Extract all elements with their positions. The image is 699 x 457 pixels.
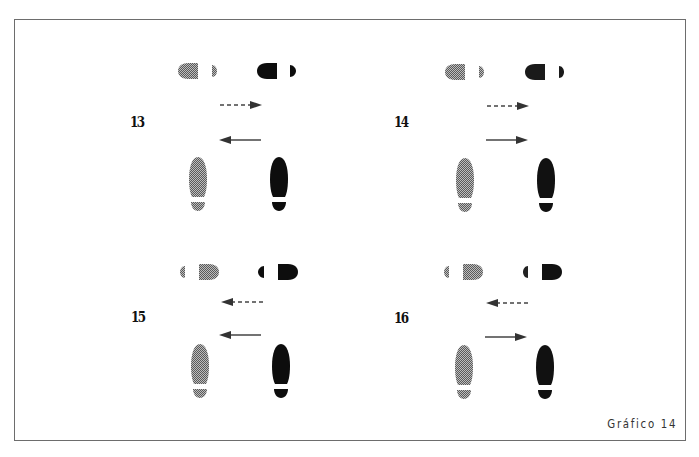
black-footprint-horizontal-icon xyxy=(523,264,565,281)
panel-number: 14 xyxy=(394,113,408,131)
dashed-arrow-left-icon xyxy=(486,298,530,308)
solid-arrow-right-icon xyxy=(485,332,529,342)
grey-footprint-horizontal-icon xyxy=(445,64,487,81)
dashed-arrow-left-icon xyxy=(221,297,265,307)
solid-arrow-right-icon xyxy=(486,135,530,145)
black-footprint-horizontal-icon xyxy=(525,64,567,81)
panel-number: 13 xyxy=(130,113,144,131)
solid-arrow-left-icon xyxy=(219,330,263,340)
grey-footprint-vertical-icon xyxy=(188,157,208,212)
black-footprint-vertical-icon xyxy=(536,158,556,213)
grey-footprint-vertical-icon xyxy=(190,344,210,399)
figure-frame xyxy=(14,19,686,441)
black-footprint-vertical-icon xyxy=(535,345,555,400)
panel-number: 16 xyxy=(394,309,408,327)
dashed-arrow-right-icon xyxy=(220,100,264,110)
grey-footprint-horizontal-icon xyxy=(444,264,486,281)
black-footprint-horizontal-icon xyxy=(258,264,300,281)
black-footprint-horizontal-icon xyxy=(257,63,299,80)
dashed-arrow-right-icon xyxy=(487,101,531,111)
solid-arrow-left-icon xyxy=(219,135,263,145)
grey-footprint-vertical-icon xyxy=(455,158,475,213)
grey-footprint-horizontal-icon xyxy=(180,264,222,281)
black-footprint-vertical-icon xyxy=(269,157,289,212)
figure-caption: Gráfico 14 xyxy=(607,417,677,431)
grey-footprint-horizontal-icon xyxy=(178,63,220,80)
panel-number: 15 xyxy=(131,308,145,326)
grey-footprint-vertical-icon xyxy=(454,345,474,400)
black-footprint-vertical-icon xyxy=(271,344,291,399)
